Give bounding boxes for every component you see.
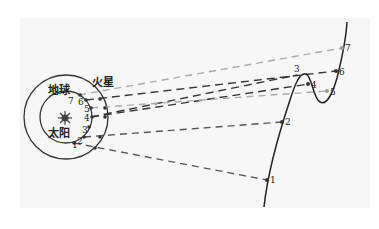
sightline-3 [91, 75, 297, 117]
sky-pos-label-6: 6 [339, 67, 345, 77]
mars-retrograde-diagram: 1 2 3 4 5 6 7 1 2 3 4 5 6 7 地球 火星 太阳 [0, 0, 379, 229]
earth-pos-label-2: 2 [77, 136, 83, 146]
earth-pos-label-5: 5 [84, 104, 90, 114]
mars-apparent-path [264, 22, 347, 207]
sun-label: 太阳 [47, 126, 70, 140]
mars-label: 火星 [92, 76, 114, 89]
earth-pos-label-7: 7 [68, 96, 74, 106]
earth-pos-label-3: 3 [82, 125, 88, 135]
earth-pos-label-4: 4 [84, 113, 90, 123]
sky-position-markers [265, 46, 344, 182]
sky-pos-label-7: 7 [345, 43, 351, 53]
sightline-1 [74, 143, 267, 180]
sky-pos-label-5: 5 [330, 87, 336, 97]
sun-icon [58, 111, 72, 125]
sightline-7 [79, 48, 342, 95]
earth-label: 地球 [48, 83, 71, 97]
sky-pos-label-4: 4 [311, 80, 317, 90]
sky-pos-label-1: 1 [270, 175, 276, 185]
sightline-2 [84, 122, 282, 137]
sky-pos-label-3: 3 [294, 64, 300, 74]
earth-pos-label-6: 6 [78, 97, 84, 107]
sky-pos-label-2: 2 [285, 117, 291, 127]
